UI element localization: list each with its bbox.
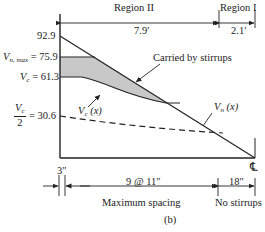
last-spacing-label: 18″ [229, 177, 244, 188]
y-label-vc-half-fraction: Vc 2 [14, 103, 26, 129]
vn-x-label: Vn (x) [214, 102, 238, 114]
figure-caption: (b) [164, 215, 176, 226]
centerline-symbol: ℄ [250, 161, 258, 173]
region-ii-length: 7.9′ [134, 26, 149, 37]
middle-spacing-label: 9 @ 11″ [126, 177, 161, 188]
region-i-label: Region I [220, 3, 256, 14]
first-spacing-label: 3″ [57, 166, 67, 177]
y-label-vn-max: Vn, max = 75.9 [3, 52, 58, 64]
y-label-vc-half-value: = 30.6 [29, 111, 56, 122]
vc-x-label: Vc (x) [78, 106, 102, 118]
y-label-top: 92.9 [37, 31, 55, 42]
y-label-vc: Vc = 61.3 [20, 72, 59, 84]
stirrups-label: Carried by stirrups [153, 53, 232, 64]
region-ii-label: Region II [114, 3, 154, 14]
stirrups-leader [136, 64, 160, 82]
region-i-length: 2.1′ [231, 26, 246, 37]
stirrup-shaded-area [60, 57, 166, 103]
vn-leader [203, 113, 212, 126]
no-stirrups-note: No stirrups [215, 198, 262, 209]
max-spacing-note: Maximum spacing [102, 198, 180, 209]
vc-half-dashed-curve [60, 116, 223, 133]
